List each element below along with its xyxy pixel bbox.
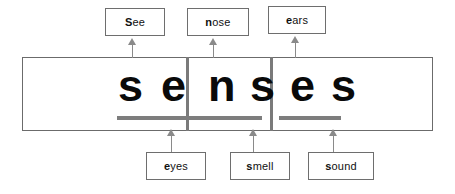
label-nose-rest: ose [212,16,230,28]
blank-line-3 [279,116,341,120]
label-box-see[interactable]: See [105,8,165,36]
label-box-ears[interactable]: ears [268,6,326,34]
arrow-up-see-icon [128,38,137,58]
label-box-nose[interactable]: nose [187,8,249,36]
label-box-sound[interactable]: sound [308,152,374,180]
label-box-smell[interactable]: smell [230,152,290,180]
label-ears-rest: ars [292,14,308,26]
blank-line-2 [200,116,262,120]
label-see-bold: S [125,16,133,28]
arrow-up-ears-icon [291,36,300,58]
label-smell-rest: mell [253,160,274,172]
label-nose-bold: n [205,16,212,28]
arrow-up-eyes-icon [167,129,176,152]
arrow-up-nose-icon [209,38,218,58]
label-box-eyes[interactable]: eyes [146,152,206,180]
arrow-up-smell-icon [249,129,258,152]
blank-line-1 [117,116,202,120]
cell-divider-2 [270,57,273,131]
label-sound-rest: ound [332,160,357,172]
label-see-rest: ee [132,16,145,28]
senses-diagram: s e n s e s See nose ears eyes smell sou… [0,0,455,194]
label-eyes-rest: yes [170,160,188,172]
arrow-up-sound-icon [329,129,338,152]
